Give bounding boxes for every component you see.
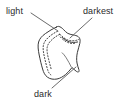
leader-line-light [31, 13, 58, 31]
rock-facet-line [62, 53, 71, 67]
label-light: light [6, 6, 23, 16]
shading-boundary [43, 31, 57, 75]
label-dark: dark [34, 89, 52, 99]
shading-boundary-inner [47, 34, 60, 69]
leader-line-dark [52, 67, 76, 88]
rock-shading-figure: light darkest dark [0, 0, 124, 103]
leader-line-darkest [70, 18, 92, 38]
label-darkest: darkest [83, 6, 113, 16]
